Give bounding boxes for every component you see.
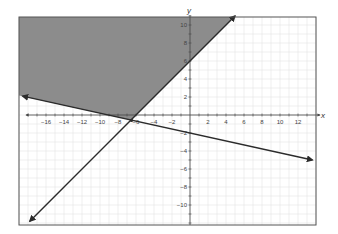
y-tick-label: −4	[180, 148, 188, 154]
y-tick-label: −6	[180, 166, 188, 172]
intersection-point	[130, 119, 133, 122]
coordinate-plane-chart: −16−14−12−10−8−6−4−224681012108642−2−4−6…	[0, 0, 338, 234]
x-tick-label: 10	[277, 119, 284, 125]
y-tick-label: 10	[180, 22, 187, 28]
x-tick-label: 12	[295, 119, 302, 125]
x-tick-label: −12	[77, 119, 88, 125]
x-tick-label: −16	[41, 119, 52, 125]
x-axis-label: x	[320, 111, 326, 120]
x-tick-label: −8	[115, 119, 123, 125]
x-tick-label: −2	[169, 119, 177, 125]
line-2	[23, 96, 313, 160]
y-tick-label: −8	[180, 184, 188, 190]
y-tick-label: −10	[177, 202, 188, 208]
y-axis-label: y	[186, 6, 192, 15]
x-tick-label: −14	[59, 119, 70, 125]
x-tick-label: −10	[95, 119, 106, 125]
